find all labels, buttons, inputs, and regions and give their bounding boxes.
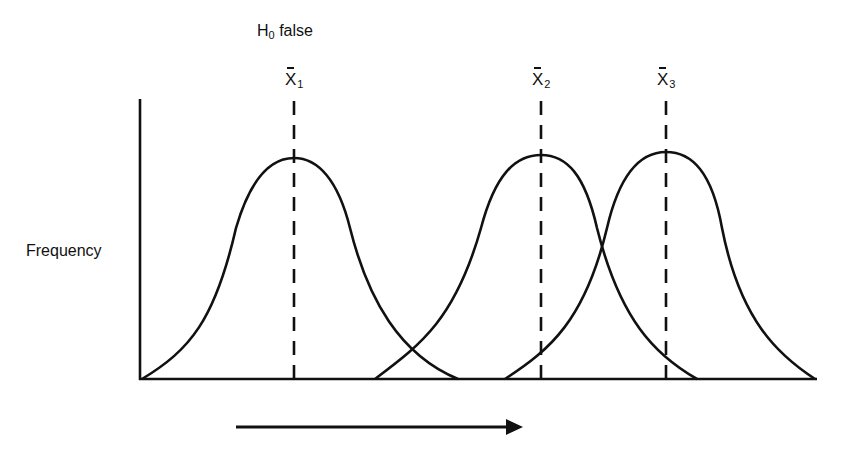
distribution-diagram <box>0 0 847 451</box>
xbar-symbol: X <box>657 71 668 88</box>
xbar-symbol: X <box>532 71 543 88</box>
xbar-subscript: 2 <box>544 78 550 90</box>
xbar-subscript: 1 <box>297 78 303 90</box>
false-text: false <box>275 22 313 39</box>
mean-label-1: X1 <box>285 71 303 90</box>
direction-arrow-head <box>506 419 523 435</box>
h0-false-label: H0 false <box>257 22 313 41</box>
distribution-curve-3 <box>505 152 815 379</box>
xbar-symbol: X <box>285 71 296 88</box>
xbar-subscript: 3 <box>669 78 675 90</box>
h-symbol: H <box>257 22 269 39</box>
distribution-curve-2 <box>375 155 697 379</box>
mean-label-3: X3 <box>657 71 675 90</box>
y-axis-label: Frequency <box>26 242 102 260</box>
mean-label-2: X2 <box>532 71 550 90</box>
distribution-curve-1 <box>142 158 458 379</box>
